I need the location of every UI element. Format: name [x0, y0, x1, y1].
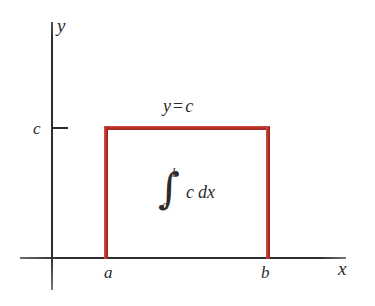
left-boundary-line-a [104, 127, 108, 259]
y-axis-label: y [57, 16, 65, 35]
y-tick-label-c: c [33, 120, 41, 137]
x-tick-label-a: a [104, 264, 113, 281]
integrand-value: c [186, 182, 194, 202]
line-equation-operator: = [171, 96, 185, 116]
integral-lower-limit: a [162, 197, 169, 213]
integral-integrand-group: cdx [186, 182, 215, 203]
line-equation-lhs: y [163, 96, 171, 116]
line-equation-rhs: c [185, 96, 193, 116]
integral-symbol-group: ∫ b a [158, 166, 178, 210]
x-tick-label-b: b [261, 264, 270, 281]
line-equation-label: y=c [163, 97, 193, 115]
x-axis-label: x [338, 259, 346, 278]
x-axis-line [20, 257, 346, 259]
right-boundary-line-b [266, 127, 270, 259]
y-axis-tick-c [52, 127, 68, 129]
y-axis-line [51, 22, 53, 290]
integral-expression: ∫ b a cdx [158, 166, 215, 210]
differential-dx: dx [198, 182, 215, 202]
integral-upper-limit: b [172, 165, 179, 181]
figure-canvas: y x c a b y=c ∫ b a cdx [0, 0, 375, 306]
constant-function-line [104, 126, 270, 130]
